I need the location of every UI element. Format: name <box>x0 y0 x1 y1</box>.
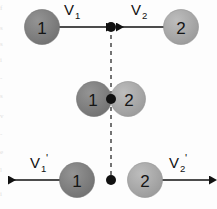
edge-artifact: i <box>0 190 2 198</box>
ball-one-before-label: 1 <box>37 19 46 38</box>
collision-point-dot <box>106 22 116 32</box>
velocity-v2-prime-mark: ' <box>185 152 187 164</box>
contact-point-dot <box>106 94 116 104</box>
edge-artifact: i <box>0 56 2 64</box>
velocity-v2-label: V <box>131 1 141 18</box>
collision-diagram: 1 2 V 1 V 2 1 2 1 2 V 1 ' V 2 ' <box>0 0 217 209</box>
velocity-v1-prime-label: V <box>30 154 40 171</box>
ball-two-before-label: 2 <box>176 19 185 38</box>
edge-artifact: l <box>0 166 2 174</box>
velocity-v1-prime-subscript: 1 <box>41 163 46 174</box>
left-edge-text-artifacts: f s s i - s v - e l i <box>0 4 4 198</box>
diagram-canvas: 1 2 V 1 V 2 1 2 1 2 V 1 ' V 2 ' <box>0 0 217 209</box>
ball-one-contact-label: 1 <box>88 91 97 110</box>
ball-one-after-label: 1 <box>72 172 81 191</box>
velocity-v1-prime-mark: ' <box>46 152 48 164</box>
edge-artifact: e <box>0 148 3 156</box>
ball-two-contact-label: 2 <box>124 91 133 110</box>
edge-artifact: s <box>0 92 3 100</box>
velocity-v2-prime-label: V <box>169 154 179 171</box>
edge-artifact: s <box>0 24 3 32</box>
edge-artifact: v <box>0 112 4 120</box>
edge-artifact: s <box>0 40 3 48</box>
ball-two-after-label: 2 <box>140 172 149 191</box>
edge-artifact: f <box>0 4 3 12</box>
edge-artifact: - <box>0 130 3 138</box>
velocity-v2-prime-subscript: 2 <box>180 163 185 174</box>
separation-point-dot <box>106 175 116 185</box>
velocity-v1-label: V <box>64 1 74 18</box>
velocity-v2-subscript: 2 <box>142 10 147 21</box>
velocity-v1-subscript: 1 <box>75 10 80 21</box>
edge-artifact: - <box>0 74 3 82</box>
